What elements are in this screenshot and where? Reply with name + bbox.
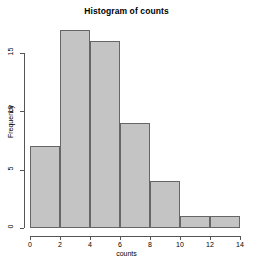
histogram-plot: Histogram of counts Frequency 051015 024…: [0, 0, 253, 265]
histogram-bar: [90, 41, 120, 228]
histogram-bar: [60, 30, 90, 228]
bars-panel: [0, 0, 253, 265]
histogram-bar: [150, 181, 180, 228]
x-axis-title: counts: [0, 250, 253, 257]
histogram-bar: [180, 216, 210, 228]
histogram-bar: [30, 146, 60, 228]
histogram-bar: [120, 123, 150, 228]
histogram-bar: [210, 216, 240, 228]
